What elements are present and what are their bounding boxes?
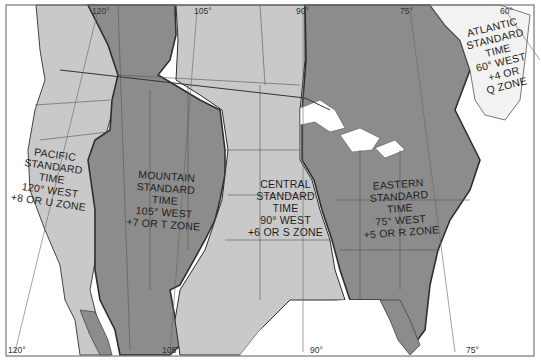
meridian-label-top-120: 120° (92, 6, 110, 16)
central-zone-label: CENTRAL STANDARD TIME 90° WEST +6 OR S Z… (248, 178, 323, 238)
mountain-zone-label: MOUNTAIN STANDARD TIME 105° WEST +7 OR T… (126, 167, 204, 232)
time-zone-map: 120° 105° 90° 75° 60° 120° 105° 90° 75° … (0, 0, 541, 363)
meridian-label-bottom-75: 75° (466, 345, 479, 355)
meridian-label-bottom-120: 120° (8, 345, 26, 355)
pacific-zone-label: PACIFIC STANDARD TIME 120° WEST +8 OR U … (10, 143, 93, 213)
eastern-zone-label: EASTERN STANDARD TIME 75° WEST +5 OR R Z… (360, 175, 440, 240)
meridian-label-top-105: 105° (194, 6, 212, 16)
meridian-label-top-75: 75° (400, 6, 413, 16)
meridian-label-top-60: 60° (500, 6, 513, 16)
meridian-label-bottom-105: 105° (162, 345, 180, 355)
meridian-label-top-90: 90° (296, 6, 309, 16)
meridian-label-bottom-90: 90° (310, 345, 323, 355)
